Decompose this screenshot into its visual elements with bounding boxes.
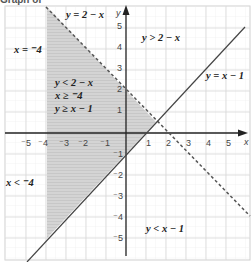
x-tick-label: 5 <box>226 138 231 148</box>
x-axis-label: x <box>243 137 249 147</box>
label-line-y-2-minus-x: y = 2 − x <box>64 9 104 20</box>
x-tick-label: 3 <box>186 138 191 148</box>
y-tick-label: 1 <box>117 105 122 115</box>
y-tick-label: ⁻3 <box>113 191 123 201</box>
x-tick-label: 1 <box>146 138 151 148</box>
label-y-less-x-minus-1: y < x − 1 <box>144 223 184 234</box>
system-inequality-2: x ≥ ⁻4 <box>54 90 83 101</box>
x-tick-label: ⁻2 <box>78 138 88 148</box>
x-tick-label: 4 <box>206 138 211 148</box>
label-x-equals-minus-4: x = ⁻4 <box>13 44 42 55</box>
y-tick-label: 3 <box>117 63 122 73</box>
label-y-greater-2-minus-x: y > 2 − x <box>140 32 180 43</box>
x-tick-label: ⁻4 <box>38 138 48 148</box>
y-tick-label: ⁻4 <box>113 212 123 222</box>
x-tick-label: ⁻1 <box>100 138 110 148</box>
inequality-graph: ⁻5 ⁻4 ⁻3 ⁻2 ⁻1 1 2 3 4 5 x 5 4 3 2 1 ⁻1 … <box>0 0 252 262</box>
y-tick-label: ⁻2 <box>113 170 123 180</box>
x-tick-label: ⁻3 <box>59 138 69 148</box>
system-inequality-1: y < 2 − x <box>53 77 93 88</box>
y-tick-label: 2 <box>117 84 122 94</box>
x-tick-label: ⁻5 <box>21 138 31 148</box>
system-inequality-3: y ≥ x − 1 <box>53 103 93 114</box>
y-tick-label: ⁻5 <box>113 233 123 243</box>
y-tick-label: 5 <box>117 21 122 31</box>
label-line-y-x-minus-1: y = x − 1 <box>204 70 244 81</box>
y-tick-label: ⁻1 <box>113 149 123 159</box>
x-tick-label: 2 <box>166 138 171 148</box>
y-tick-label: 4 <box>117 42 122 52</box>
label-x-less-minus-4: x < ⁻4 <box>5 177 34 188</box>
y-axis-label: y <box>115 8 121 18</box>
